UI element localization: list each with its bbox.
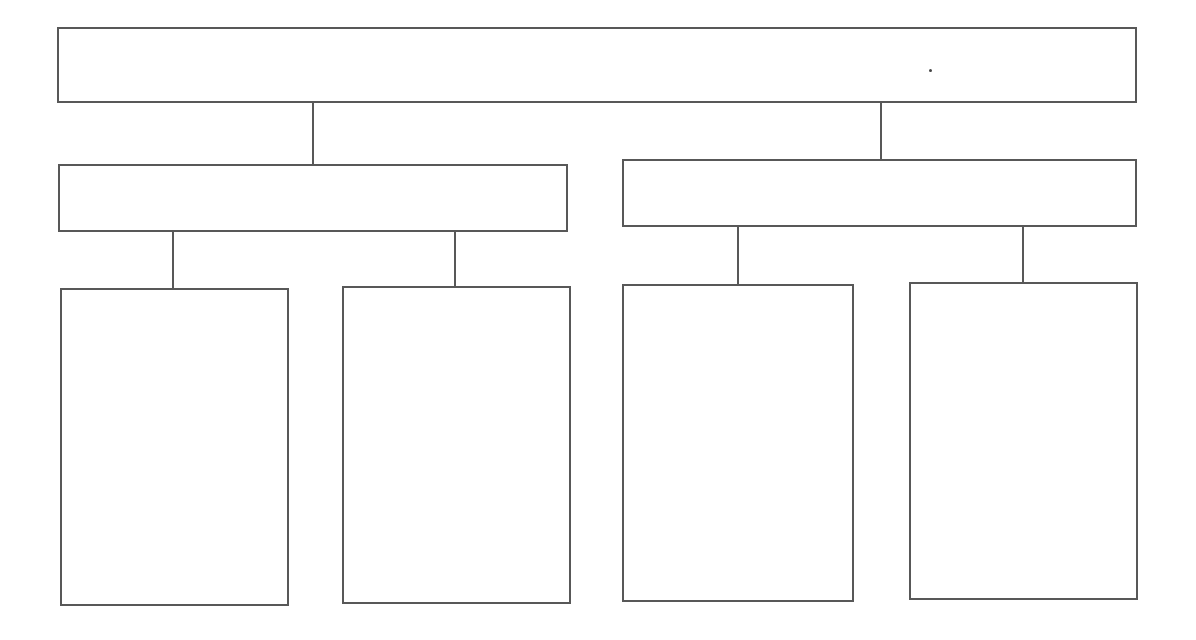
level2-box-1 xyxy=(60,288,289,606)
connector-right-child-2 xyxy=(1022,225,1024,283)
level2-box-4 xyxy=(909,282,1138,600)
level1-box-right xyxy=(622,159,1137,227)
level2-box-2 xyxy=(342,286,571,604)
stray-mark xyxy=(929,69,932,72)
connector-root-right xyxy=(880,100,882,160)
connector-root-left xyxy=(312,102,314,165)
connector-right-child-1 xyxy=(737,226,739,285)
level2-box-3 xyxy=(622,284,854,602)
connector-left-child-1 xyxy=(172,231,174,289)
root-box xyxy=(57,27,1137,103)
level1-box-left xyxy=(58,164,568,232)
connector-left-child-2 xyxy=(454,229,456,287)
